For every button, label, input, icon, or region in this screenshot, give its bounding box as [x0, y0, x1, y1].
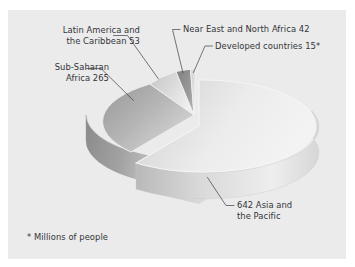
leader-line-developed-countries: [194, 46, 213, 73]
label-latin-america-line2: the Caribbean 53: [30, 36, 140, 47]
label-near-east-north-africa-text: Near East and North Africa 42: [183, 24, 310, 34]
leader-line-near-east: [173, 30, 184, 74]
label-sub-saharan-africa-line2: Africa 265: [14, 73, 109, 84]
label-asia-and-the-pacific-line1: 642 Asia and: [237, 200, 292, 210]
pie-chart-figure: Latin America and the Caribbean 53 Sub-S…: [0, 0, 355, 267]
footnote-millions-of-people: * Millions of people: [27, 232, 108, 243]
label-latin-america-line1: Latin America and: [63, 25, 140, 35]
label-latin-america: Latin America and the Caribbean 53: [30, 25, 140, 47]
label-asia-and-the-pacific-line2: the Pacific: [237, 211, 292, 222]
label-developed-countries-text: Developed countries 15*: [215, 41, 320, 51]
label-sub-saharan-africa: Sub-Saharan Africa 265: [14, 62, 109, 84]
label-developed-countries: Developed countries 15*: [215, 41, 320, 52]
label-near-east-north-africa: Near East and North Africa 42: [183, 24, 310, 35]
label-asia-and-the-pacific: 642 Asia and the Pacific: [237, 200, 292, 222]
label-sub-saharan-africa-line1: Sub-Saharan: [55, 62, 109, 72]
